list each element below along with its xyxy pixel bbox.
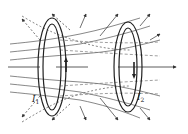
label-loop-2: I2: [136, 92, 145, 103]
current-arrow-icon-2: [132, 74, 136, 79]
current-arrow-icon-1: [64, 57, 68, 62]
label-loop-1: I1: [31, 94, 39, 105]
field-lines-loop-2: [60, 40, 160, 96]
diagram-canvas: I1 I2: [0, 0, 188, 134]
